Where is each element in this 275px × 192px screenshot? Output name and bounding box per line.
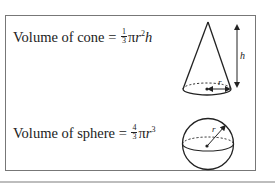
cone-volume-formula: Volume of cone = 13πr2h: [13, 30, 152, 47]
cone-radius-label: r: [218, 77, 222, 87]
cone-height-label: h: [240, 50, 245, 61]
sphere-radius-label: r: [212, 124, 216, 134]
fraction-one-third: 13: [121, 28, 127, 45]
cone-label: Volume of cone: [13, 29, 105, 45]
fraction-four-thirds: 43: [131, 124, 137, 141]
exponent: 3: [151, 125, 155, 134]
sphere-diagram: r: [180, 115, 240, 175]
height-variable: h: [145, 29, 152, 45]
divider-line: [0, 181, 275, 183]
sphere-label: Volume of sphere: [13, 125, 115, 141]
equals-sign: =: [108, 29, 116, 45]
sphere-volume-formula: Volume of sphere = 43πr3: [13, 126, 155, 143]
pi-symbol: π: [138, 125, 145, 141]
cone-diagram: r h: [175, 15, 250, 105]
equals-sign: =: [119, 125, 127, 141]
